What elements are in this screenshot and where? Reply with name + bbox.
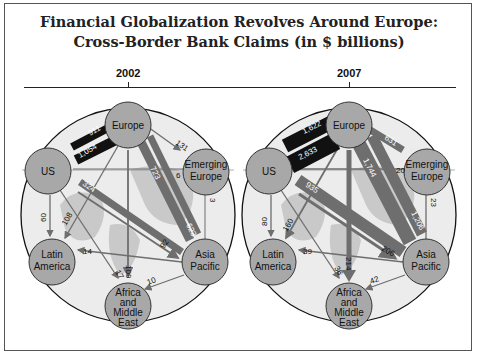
svg-text:Europe: Europe (190, 171, 223, 182)
node-latin-america-2002: Latin America (29, 239, 75, 285)
panel-2007: Europe US Emerging Europe Latin America … (242, 102, 456, 329)
svg-text:Pacific: Pacific (190, 261, 219, 272)
svg-text:Emerging: Emerging (185, 159, 228, 170)
flow-us-latin-2002: 60 (39, 213, 48, 222)
node-us-2007: US (246, 148, 292, 194)
flow-emerging-asia-2002: 3 (208, 198, 217, 203)
flow-europe-africa-2007: 214 (344, 257, 353, 271)
node-latin-america-2007: Latin America (250, 239, 296, 285)
node-europe-2002: Europe (105, 102, 151, 148)
flow-asia-latin-2007: 39 (303, 247, 312, 256)
svg-text:Europe: Europe (333, 120, 366, 131)
node-africa-me-2002: Africa and Middle East (105, 283, 151, 329)
flow-europe-africa-2002: 109 (124, 265, 133, 279)
svg-text:America: America (34, 261, 71, 272)
panel-2002: Europe US Emerging Europe Latin America … (21, 102, 235, 329)
node-asia-pacific-2002: Asia Pacific (182, 239, 228, 285)
svg-text:Europe: Europe (411, 171, 444, 182)
svg-text:Asia: Asia (416, 249, 436, 260)
svg-text:East: East (118, 317, 138, 328)
svg-text:US: US (41, 166, 55, 177)
node-emerging-europe-2002: Emerging Europe (183, 149, 229, 195)
svg-text:East: East (339, 317, 359, 328)
svg-text:America: America (255, 261, 292, 272)
node-asia-pacific-2007: Asia Pacific (403, 239, 449, 285)
node-africa-me-2007: Africa and Middle East (326, 283, 372, 329)
svg-text:Emerging: Emerging (406, 159, 449, 170)
node-us-2002: US (25, 148, 71, 194)
flow-emerging-us-2007: 20 (396, 166, 405, 175)
node-europe-2007: Europe (326, 102, 372, 148)
svg-text:Latin: Latin (41, 249, 63, 260)
node-emerging-europe-2007: Emerging Europe (404, 149, 450, 195)
diagrams: Europe US Emerging Europe Latin America … (0, 0, 478, 356)
svg-text:Latin: Latin (262, 249, 284, 260)
svg-text:US: US (262, 166, 276, 177)
svg-text:Pacific: Pacific (411, 261, 440, 272)
svg-text:Asia: Asia (195, 249, 215, 260)
svg-text:Europe: Europe (112, 120, 145, 131)
flow-emerging-us-2002: 6 (176, 171, 181, 180)
flow-asia-latin-2002: 14 (83, 247, 92, 256)
flow-us-latin-2007: 80 (260, 217, 269, 226)
flow-emerging-asia-2007: 23 (429, 198, 438, 207)
